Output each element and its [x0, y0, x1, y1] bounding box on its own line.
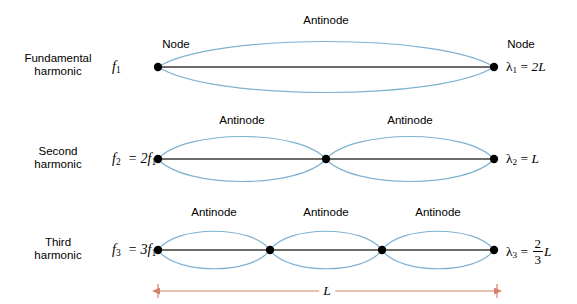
frequency-subscript: 1 [116, 65, 121, 75]
wavelength-expression-2: λ2 = L [506, 151, 539, 167]
antinode-label-text: Antinode [219, 114, 264, 126]
antinode-label-3-3: Antinode [415, 206, 460, 219]
antinode-label-text: Antinode [387, 114, 432, 126]
antinode-label-text: Antinode [191, 206, 236, 218]
fraction-numerator: 2 [533, 237, 544, 250]
harmonic-name-line2: harmonic [34, 249, 81, 261]
wavelength-subscript: 3 [513, 250, 518, 260]
equals-sign: = [521, 151, 529, 166]
antinode-label-text: Antinode [303, 14, 348, 26]
node-label-right: Node [507, 38, 535, 51]
frequency-expression-3: f3 = 3f1 [112, 242, 170, 259]
node-label-left: Node [162, 38, 190, 51]
frequency-subscript: 3 [116, 248, 121, 258]
harmonic-row-3-graphic [154, 231, 498, 269]
node-dot [490, 63, 498, 71]
wavelength-value: L [532, 151, 540, 166]
node-label-text: Node [507, 38, 535, 50]
frequency-subscript: 2 [116, 157, 121, 167]
frequency-relation-subscript: 1 [152, 157, 157, 167]
frequency-expression-1: f1 [112, 59, 170, 76]
harmonic-name-fundamental: Fundamental harmonic [4, 52, 112, 78]
harmonic-name-line1: Third [45, 236, 71, 248]
harmonic-name-line2: harmonic [34, 158, 81, 170]
node-dot [490, 246, 498, 254]
antinode-label-text: Antinode [415, 206, 460, 218]
wavelength-subscript: 1 [513, 65, 518, 75]
antinode-label-3-2: Antinode [303, 206, 348, 219]
antinode-label-2-2: Antinode [387, 114, 432, 127]
wave-envelope-upper-3 [158, 231, 494, 250]
harmonic-name-second: Second harmonic [4, 145, 112, 171]
frequency-relation: = 2f [128, 151, 152, 166]
frequency-relation-subscript: 1 [152, 248, 157, 258]
harmonic-name-line2: harmonic [34, 65, 81, 77]
node-label-text: Node [162, 38, 190, 50]
fraction-denominator: 3 [533, 253, 544, 266]
equals-sign: = [521, 59, 529, 74]
wavelength-expression-3: λ3 = 2 3 L [506, 238, 552, 267]
equals-sign: = [521, 244, 529, 259]
harmonic-name-third: Third harmonic [4, 236, 112, 262]
node-dot [322, 155, 330, 163]
wavelength-fraction: 2 3 [533, 237, 544, 266]
wavelength-expression-1: λ1 = 2L [506, 59, 546, 75]
harmonic-name-line1: Second [38, 145, 77, 157]
length-dimension-label: L [319, 283, 335, 298]
node-dot [378, 246, 386, 254]
wave-envelope-upper-1 [158, 42, 494, 68]
length-dimension-text: L [323, 283, 331, 298]
wave-envelope-lower-3 [158, 250, 494, 269]
antinode-label-1-1: Antinode [303, 14, 348, 27]
wavelength-subscript: 2 [513, 157, 518, 167]
node-dot [490, 155, 498, 163]
wavelength-value: L [544, 244, 552, 259]
node-dot [266, 246, 274, 254]
frequency-relation: = 3f [128, 242, 152, 257]
harmonic-row-1-graphic [154, 42, 498, 93]
wavelength-value: 2L [532, 59, 546, 74]
harmonic-name-line1: Fundamental [24, 52, 91, 64]
wave-envelope-lower-1 [158, 67, 494, 93]
harmonic-row-2-graphic [154, 137, 498, 182]
frequency-expression-2: f2 = 2f1 [112, 151, 170, 168]
antinode-label-text: Antinode [303, 206, 348, 218]
antinode-label-3-1: Antinode [191, 206, 236, 219]
antinode-label-2-1: Antinode [219, 114, 264, 127]
standing-wave-harmonics-figure: Fundamental harmonic Second harmonic Thi… [0, 0, 577, 304]
